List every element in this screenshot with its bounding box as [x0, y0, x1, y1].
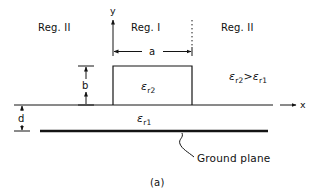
figure-container: y x Reg. II Reg. I Reg. II a εr2: [0, 0, 321, 194]
strip-permittivity-label: εr2: [141, 80, 155, 95]
x-axis-label: x: [300, 99, 306, 110]
inequality-right-subscript: r1: [259, 76, 267, 85]
dimension-b-label: b: [82, 80, 89, 91]
figure-caption: (a): [150, 177, 165, 188]
region-label-center: Reg. I: [131, 22, 161, 33]
region-label-right: Reg. II: [221, 22, 254, 33]
ground-plane-leader-line: [180, 133, 194, 157]
strip-permittivity-subscript: r2: [147, 86, 155, 95]
inequality-operator: >: [243, 70, 252, 83]
inequality-left-subscript: r2: [235, 76, 243, 85]
dimension-d-label: d: [18, 113, 25, 124]
substrate-permittivity-subscript: r1: [143, 118, 151, 127]
ground-plane-label: Ground plane: [197, 152, 271, 164]
diagram-svg: y x Reg. II Reg. I Reg. II a εr2: [0, 0, 321, 194]
region-label-left: Reg. II: [38, 22, 71, 33]
dimension-a-label: a: [149, 46, 155, 57]
substrate-permittivity-label: εr1: [137, 112, 151, 127]
y-axis-label: y: [110, 5, 116, 16]
permittivity-inequality: εr2>εr1: [229, 70, 267, 85]
